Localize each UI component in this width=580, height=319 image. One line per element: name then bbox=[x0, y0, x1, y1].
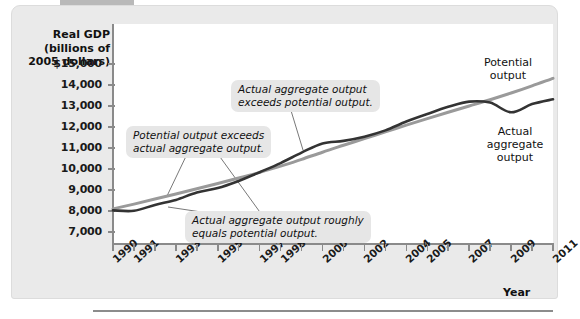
callout-potential-exceeds: Potential output exceeds actual aggregat… bbox=[126, 126, 271, 158]
bottom-rule bbox=[93, 310, 553, 312]
leader-lines bbox=[167, 104, 303, 216]
label-line-1: Potential bbox=[470, 56, 546, 69]
callout-line-2: exceeds potential output. bbox=[238, 96, 373, 109]
callout-line-1: Potential output exceeds bbox=[133, 129, 264, 142]
label-line-2: aggregate bbox=[476, 138, 554, 151]
x-axis-title: Year bbox=[503, 286, 530, 299]
callout-roughly-equals: Actual aggregate output roughly equals p… bbox=[185, 211, 371, 243]
label-potential-output: Potential output bbox=[470, 56, 546, 82]
label-line-3: output bbox=[476, 151, 554, 164]
callout-line-1: Actual aggregate output roughly bbox=[192, 214, 364, 227]
label-actual-output: Actual aggregate output bbox=[476, 125, 554, 164]
label-line-2: output bbox=[470, 69, 546, 82]
callout-line-2: equals potential output. bbox=[192, 227, 364, 240]
label-line-1: Actual bbox=[476, 125, 554, 138]
callout-line-1: Actual aggregate output bbox=[238, 83, 373, 96]
callout-line-2: actual aggregate output. bbox=[133, 142, 264, 155]
callout-actual-exceeds: Actual aggregate output exceeds potentia… bbox=[231, 80, 380, 112]
